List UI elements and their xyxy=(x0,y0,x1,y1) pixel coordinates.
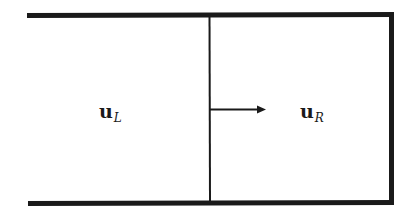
diagram-canvas xyxy=(0,0,411,213)
right-state-symbol: u xyxy=(300,100,314,122)
left-state-subscript: L xyxy=(114,111,122,125)
bottom-wall xyxy=(28,203,394,204)
left-state-label: uL xyxy=(99,100,122,122)
right-state-label: uR xyxy=(300,100,324,122)
left-state-symbol: u xyxy=(99,100,113,122)
right-state-subscript: R xyxy=(315,111,324,125)
arrow-right-icon xyxy=(210,106,266,114)
interface-line xyxy=(210,15,211,202)
